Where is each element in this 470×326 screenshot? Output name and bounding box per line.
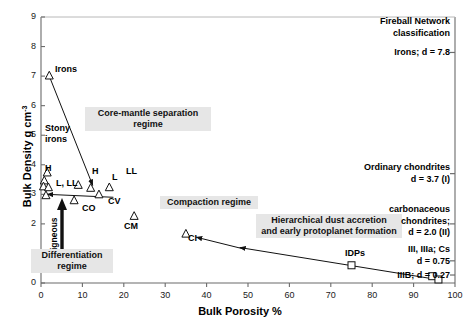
point-label-h-1: H xyxy=(45,163,52,173)
x-tick-90: 90 xyxy=(403,290,425,300)
x-tick-30: 30 xyxy=(154,290,176,300)
point-label-co: CO xyxy=(82,203,96,213)
marker-triangle-ll xyxy=(105,183,113,191)
y-axis-ticks xyxy=(41,17,45,283)
annotation-irons-density: Irons; d = 7.8 xyxy=(330,47,450,59)
y-tick-9: 9 xyxy=(20,11,36,21)
marker-triangle-cv xyxy=(95,190,103,198)
x-axis-ticks xyxy=(41,283,455,287)
marker-triangle-cm xyxy=(130,212,138,220)
differentiation-arrow xyxy=(47,194,113,197)
right-axis-d-ticks xyxy=(450,52,455,275)
point-label-ci: CI xyxy=(188,233,197,243)
x-tick-100: 100 xyxy=(444,290,466,300)
y-tick-0: 0 xyxy=(20,277,36,287)
compaction-arrow xyxy=(196,237,244,249)
marker-triangle-co xyxy=(70,196,78,204)
point-label-l: L xyxy=(112,172,118,182)
marker-triangle-irons xyxy=(45,71,53,79)
x-tick-80: 80 xyxy=(361,290,383,300)
x-tick-10: 10 xyxy=(71,290,93,300)
point-label-stony-irons-1: Stony xyxy=(45,123,70,133)
annotation-iiib: IIIB; d = 0.27 xyxy=(330,270,450,282)
annotation-fireball-network: Fireball Networkclassification xyxy=(330,16,450,39)
x-tick-0: 0 xyxy=(30,290,52,300)
igneous-label: igneous xyxy=(49,217,59,250)
point-label-cv: CV xyxy=(108,196,121,206)
marker-triangle-l xyxy=(87,184,95,192)
point-label-irons: Irons xyxy=(55,64,77,74)
x-tick-20: 20 xyxy=(113,290,135,300)
point-label-ll: LL xyxy=(126,166,137,176)
annotation-ordinary-chondrites: Ordinary chondritesd = 3.7 (I) xyxy=(330,162,450,185)
y-tick-7: 7 xyxy=(20,70,36,80)
y-axis-exponent: -3 xyxy=(21,106,28,112)
annotation-iii-iiia-cs: III, IIIa; Csd = 0.75 xyxy=(330,244,450,267)
x-axis-title: Bulk Porosity % xyxy=(150,305,330,317)
x-tick-50: 50 xyxy=(237,290,259,300)
y-tick-8: 8 xyxy=(20,41,36,51)
annotation-carbonaceous-chondrites: carbonaceouschondrites;d = 2.0 (II) xyxy=(330,204,450,239)
point-label-cm: CM xyxy=(124,221,138,231)
region-label-compaction: Compaction regime xyxy=(160,196,258,209)
x-tick-60: 60 xyxy=(278,290,300,300)
x-tick-70: 70 xyxy=(320,290,342,300)
point-label-l-ll: L, LL xyxy=(56,178,78,188)
point-label-stony-irons-2: irons xyxy=(45,134,67,144)
x-tick-40: 40 xyxy=(196,290,218,300)
region-label-core-mantle: Core-mantle separationregime xyxy=(85,107,211,131)
y-axis-title: Bulk Density g cm-3 xyxy=(21,81,34,231)
point-label-h-2: H xyxy=(92,166,99,176)
region-label-differentiation: Differentiationregime xyxy=(31,249,113,273)
